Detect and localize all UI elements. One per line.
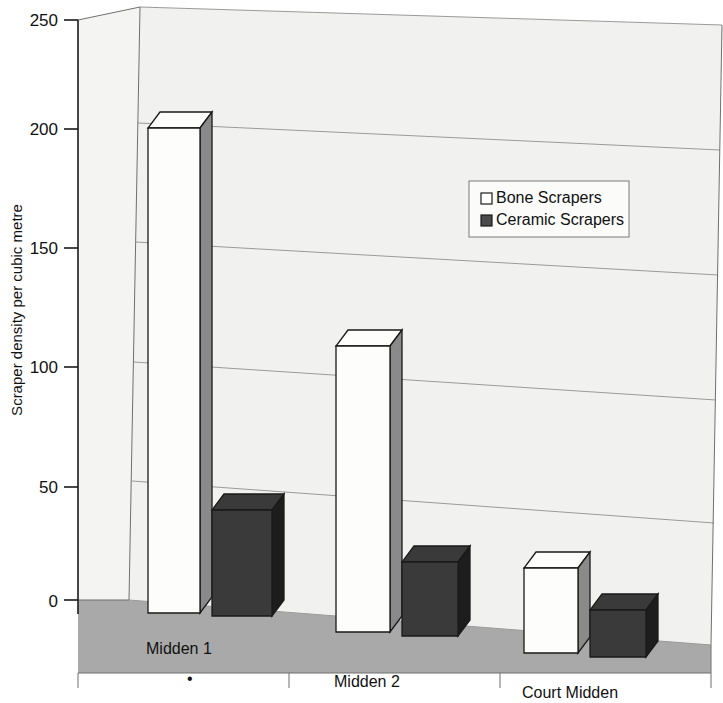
y-axis (64, 20, 78, 614)
legend: Bone Scrapers Ceramic Scrapers (469, 181, 629, 237)
y-tick-label-0: 0 (49, 592, 58, 611)
bar-side-face (458, 546, 470, 636)
bar-front-face (336, 346, 390, 632)
bar-front-face (212, 510, 272, 616)
bar-court-midden-bone-scrapers[interactable] (524, 552, 590, 653)
y-tick-label-200: 200 (30, 120, 58, 139)
bar-midden-1-bone-scrapers[interactable] (148, 112, 212, 613)
legend-item-bone-scrapers[interactable]: Bone Scrapers (481, 189, 602, 206)
legend-swatch-bone-scrapers-icon (481, 193, 492, 204)
bar-side-face (200, 112, 212, 613)
bar-midden-2-bone-scrapers[interactable] (336, 330, 402, 632)
legend-label-ceramic-scrapers: Ceramic Scrapers (496, 211, 624, 228)
y-axis-title: Scraper density per cubic metre (8, 204, 25, 416)
bar-side-face (390, 330, 402, 632)
bar-front-face (524, 568, 578, 653)
x-category-label-midden-1: Midden 1 (146, 640, 212, 657)
legend-item-ceramic-scrapers[interactable]: Ceramic Scrapers (481, 211, 624, 228)
bar-midden-1-ceramic-scrapers[interactable] (212, 494, 284, 616)
bar-side-face (578, 552, 590, 653)
y-tick-label-50: 50 (39, 478, 58, 497)
bar-front-face (402, 562, 458, 636)
legend-swatch-ceramic-scrapers-icon (481, 215, 492, 226)
x-category-label-midden-2: Midden 2 (334, 673, 400, 690)
bar-midden-2-ceramic-scrapers[interactable] (402, 546, 470, 636)
y-tick-label-100: 100 (30, 358, 58, 377)
scan-artifact-dot: • (187, 670, 193, 687)
legend-label-bone-scrapers: Bone Scrapers (496, 189, 602, 206)
bar-front-face (148, 128, 200, 613)
y-tick-label-150: 150 (30, 239, 58, 258)
x-category-label-court-midden: Court Midden (522, 684, 618, 701)
bar-court-midden-ceramic-scrapers[interactable] (590, 594, 658, 657)
chart-container: 250 200 150 100 50 0 Scraper density per… (0, 0, 723, 703)
bar-front-face (590, 610, 646, 657)
bar-chart-3d: 250 200 150 100 50 0 Scraper density per… (0, 0, 723, 703)
y-tick-label-250: 250 (30, 11, 58, 30)
bar-side-face (272, 494, 284, 616)
